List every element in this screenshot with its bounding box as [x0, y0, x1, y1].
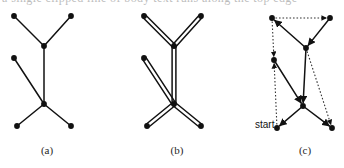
top-left-node	[269, 15, 275, 21]
mid-left-node	[271, 57, 277, 63]
edge-layer	[272, 18, 331, 128]
graph-edge	[308, 18, 330, 45]
node-layer	[269, 15, 335, 131]
graph-edge	[306, 48, 331, 125]
panel-c-graph	[0, 0, 344, 140]
upper-junction-node	[303, 45, 309, 51]
graph-edge	[272, 18, 274, 57]
graph-edge	[275, 20, 306, 48]
graph-edge	[274, 63, 277, 128]
caption-a: (a)	[17, 144, 77, 156]
start-label: start	[255, 119, 274, 130]
graph-edge	[303, 48, 306, 103]
caption-c: (c)	[275, 144, 335, 156]
graph-edge	[280, 106, 303, 126]
bottom-left-node	[274, 125, 280, 131]
lower-junction-node	[300, 103, 306, 109]
graph-edge	[274, 60, 301, 103]
top-right-node	[327, 15, 333, 21]
figure-root: a single clipped line of body text runs …	[0, 0, 344, 168]
caption-b: (b)	[147, 144, 207, 156]
bottom-right-node	[329, 125, 335, 131]
